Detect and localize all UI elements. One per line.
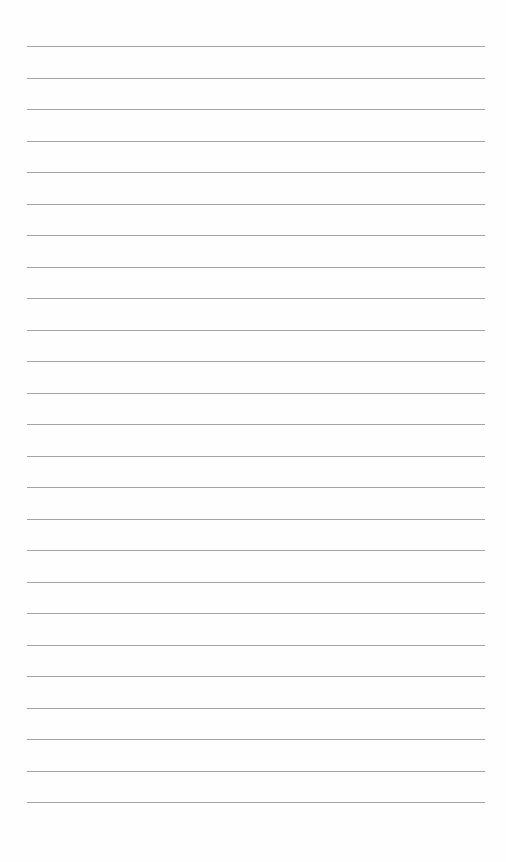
ruled-line [27,771,485,772]
lined-paper-page [0,0,506,862]
ruled-line [27,582,485,583]
ruled-line [27,46,485,47]
ruled-line [27,613,485,614]
ruled-line [27,487,485,488]
ruled-line [27,645,485,646]
ruled-line [27,393,485,394]
ruled-line [27,550,485,551]
ruled-line [27,456,485,457]
ruled-line [27,361,485,362]
ruled-line [27,235,485,236]
ruled-line [27,708,485,709]
ruled-line [27,204,485,205]
ruled-line [27,676,485,677]
ruled-line [27,78,485,79]
ruled-line [27,519,485,520]
ruled-line [27,739,485,740]
ruled-line [27,172,485,173]
ruled-line [27,267,485,268]
ruled-line [27,802,485,803]
ruled-line [27,330,485,331]
ruled-line [27,298,485,299]
ruled-line [27,141,485,142]
ruled-line [27,109,485,110]
ruled-line [27,424,485,425]
